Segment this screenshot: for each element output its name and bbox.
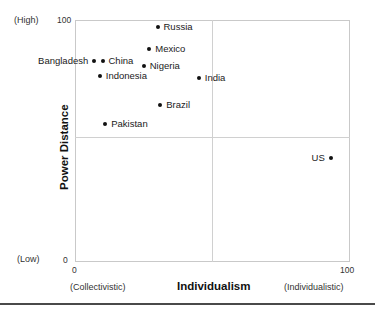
data-point <box>98 74 102 78</box>
data-point <box>103 122 107 126</box>
data-point <box>158 103 162 107</box>
data-point <box>142 64 146 68</box>
data-point-label: Mexico <box>155 44 185 54</box>
x-axis-individualistic-label: (Individualistic) <box>284 282 344 292</box>
data-point-label: China <box>109 56 134 66</box>
data-point <box>101 59 105 63</box>
y-axis-high-label: (High) <box>14 15 39 25</box>
data-point-label: Indonesia <box>106 71 147 81</box>
data-point <box>156 25 160 29</box>
y-axis-low-label: (Low) <box>17 254 40 264</box>
data-point <box>92 59 96 63</box>
x-axis-collectivistic-label: (Collectivistic) <box>70 282 126 292</box>
data-point <box>329 156 333 160</box>
x-axis-tick-100: 100 <box>340 266 354 275</box>
data-point <box>197 76 201 80</box>
scatter-chart: (High) 100 (Low) 0 Power Distance 0 100 … <box>0 0 375 318</box>
gridline-horizontal-midpoint <box>75 137 350 138</box>
gridline-vertical-midpoint <box>212 20 213 262</box>
data-point-label: Nigeria <box>150 61 180 71</box>
data-point-label: Bangladesh <box>38 56 88 66</box>
data-point-label: India <box>205 73 226 83</box>
data-point-label: US <box>312 153 325 163</box>
x-axis-tick-0: 0 <box>72 266 77 275</box>
data-point <box>147 47 151 51</box>
bottom-divider <box>0 303 375 305</box>
x-axis-title: Individualism <box>177 280 251 292</box>
data-point-label: Russia <box>164 22 193 32</box>
y-axis-title: Power Distance <box>58 104 70 190</box>
y-axis-tick-100: 100 <box>57 16 71 25</box>
data-point-label: Brazil <box>166 100 190 110</box>
y-axis-tick-0: 0 <box>63 256 68 265</box>
data-point-label: Pakistan <box>111 119 147 129</box>
